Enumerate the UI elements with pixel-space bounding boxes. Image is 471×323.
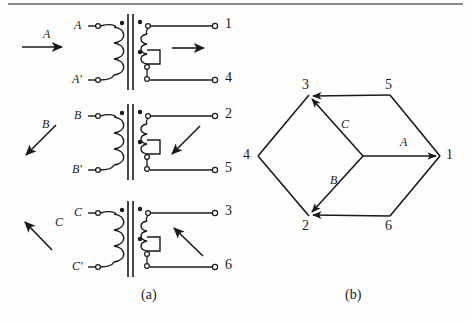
source-arrow-label-c: C [55,216,63,228]
phasor-label-c: C [341,118,349,130]
secondary-terminal-label-1: 1 [225,17,232,31]
source-phase-arrow-c [25,222,52,250]
primary-terminal-label-a: A [74,19,81,31]
primary-terminal-label-a-prime: A' [72,73,82,85]
transformer-unit-b [88,104,218,180]
primary-terminal-label-b-prime: B' [72,163,82,175]
secondary-terminal-label-2: 2 [225,107,232,121]
caption-b: (b) [345,288,361,302]
hexagon-vertex-label-1: 1 [446,148,453,162]
hexagon-vertex-label-4: 4 [243,148,250,162]
hexagon-vertex-label-6: 6 [385,219,392,233]
secondary-terminal-label-5: 5 [225,161,232,175]
primary-terminal-label-c: C [74,206,82,218]
phasor-hexagon [258,95,440,216]
hexagon-vertex-label-2: 2 [302,219,309,233]
secondary-terminal-label-6: 6 [225,258,232,272]
source-arrow-label-b: B [42,118,49,130]
transformer-unit-c [88,201,218,277]
secondary-terminal-label-3: 3 [225,204,232,218]
phasor-label-a: A [400,136,407,148]
caption-a: (a) [141,288,157,302]
hexagon-vertex-label-3: 3 [302,78,309,92]
transformer-unit-a [88,14,218,90]
primary-terminal-label-b: B [74,109,81,121]
primary-terminal-label-c-prime: C' [72,260,83,272]
figure-container: A A' B B' C C' 1 4 2 5 3 6 A B C 4 3 5 1… [0,0,471,323]
source-phase-arrow-b [26,125,56,155]
source-arrow-label-a: A [43,28,50,40]
phasor-label-b: B [330,174,337,186]
figure-drawing [0,0,471,323]
hexagon-vertex-label-5: 5 [385,78,392,92]
secondary-terminal-label-4: 4 [225,71,232,85]
